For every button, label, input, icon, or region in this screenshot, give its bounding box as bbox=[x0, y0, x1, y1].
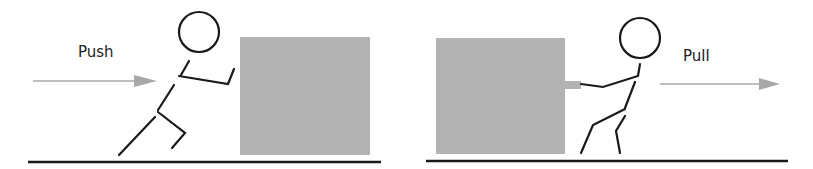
pull-label: Pull bbox=[683, 47, 710, 65]
pull-arrow-icon bbox=[660, 78, 780, 90]
push-pull-diagram: Push Pull bbox=[0, 0, 813, 169]
box bbox=[240, 37, 370, 155]
push-panel: Push bbox=[28, 12, 381, 162]
push-arrow-icon bbox=[33, 75, 157, 87]
box-handle bbox=[565, 81, 581, 89]
stick-figure-pulling bbox=[581, 18, 660, 153]
push-label: Push bbox=[78, 43, 114, 61]
pull-panel: Pull bbox=[426, 18, 788, 161]
box bbox=[436, 38, 565, 154]
